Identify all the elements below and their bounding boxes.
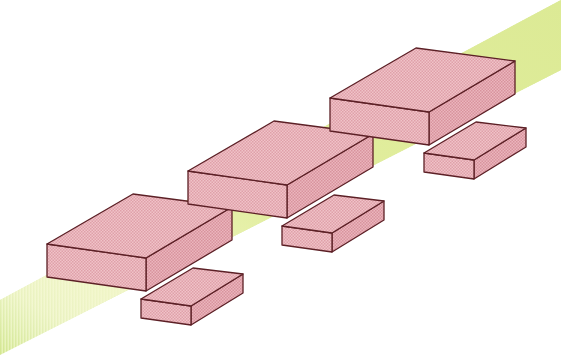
figure-root (0, 0, 561, 355)
isometric-diagram (0, 0, 561, 355)
